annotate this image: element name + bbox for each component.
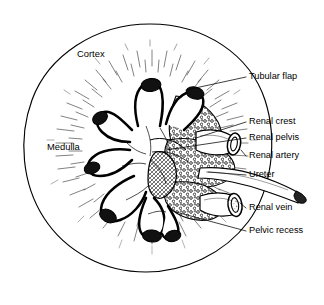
label-renal-crest: Renal crest: [249, 116, 296, 126]
label-renal-artery: Renal artery: [249, 150, 299, 160]
label-tubular-flap: Tubular flap: [249, 71, 297, 81]
label-ureter: Ureter: [249, 169, 275, 179]
label-medulla: Medulla: [47, 141, 81, 152]
label-renal-pelvis: Renal pelvis: [249, 132, 299, 142]
label-pelvic-recess: Pelvic recess: [249, 225, 304, 235]
diagram-canvas: Cortex Medulla Tubular flap Renal crest …: [0, 0, 324, 305]
renal-vein: [200, 193, 244, 218]
label-cortex: Cortex: [77, 48, 105, 59]
renal-artery: [196, 130, 242, 156]
label-renal-vein: Renal vein: [249, 202, 292, 212]
kidney-anatomy-figure: Cortex Medulla Tubular flap Renal crest …: [0, 0, 324, 305]
